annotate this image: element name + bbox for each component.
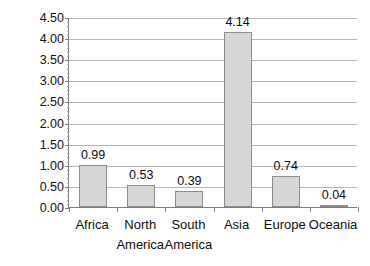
x-axis-tick [69,207,70,212]
bar[interactable] [224,32,252,207]
bar-value-label: 0.04 [322,189,346,202]
bar-value-label: 4.14 [225,16,249,29]
bar-slot: 4.14 [214,18,262,207]
bar[interactable] [320,205,348,207]
y-axis-tick-label: 2.50 [20,96,64,108]
x-axis-category-labels: AfricaNorthAmericaSouthAmericaAsiaEurope… [68,215,357,261]
bar-value-label: 0.53 [129,169,153,182]
x-axis-category-label: SouthAmerica [164,215,212,255]
y-axis-tick-label: 4.50 [20,12,64,24]
y-axis-tick-label: 3.50 [20,54,64,66]
x-axis-category-label: Africa [68,215,116,235]
bar-value-label: 0.99 [81,149,105,162]
bar-slot: 0.99 [69,18,117,207]
x-axis-tick [358,207,359,212]
bar-value-label: 0.39 [177,175,201,188]
bar-slot: 0.74 [262,18,310,207]
bar[interactable] [79,165,107,207]
bar[interactable] [127,185,155,207]
y-axis-tick-label: 0.50 [20,181,64,193]
y-axis-tick-labels: 4.504.003.503.002.502.001.501.000.500.00 [20,18,64,208]
x-axis-tick [310,207,311,212]
bar-slot: 0.39 [165,18,213,207]
plot-area: 0.990.530.394.140.740.04 [68,18,357,208]
bar[interactable] [175,191,203,207]
x-axis-tick [214,207,215,212]
bar-slot: 0.04 [310,18,358,207]
y-axis-tick-label: 1.50 [20,139,64,151]
y-axis-tick-label: 2.00 [20,118,64,130]
x-axis-tick [165,207,166,212]
x-axis-category-label: NorthAmerica [116,215,164,255]
x-axis-category-label: Europe [261,215,309,235]
y-axis-tick-label: 4.00 [20,33,64,45]
y-axis-tick-label: 1.00 [20,160,64,172]
bar-chart: Billions 4.504.003.503.002.502.001.501.0… [0,0,370,266]
y-axis-tick-label: 0.00 [20,202,64,214]
x-axis-tick [117,207,118,212]
y-axis-tick-label: 3.00 [20,75,64,87]
bar-slot: 0.53 [117,18,165,207]
x-axis-tick [262,207,263,212]
bars-group: 0.990.530.394.140.740.04 [69,18,357,207]
bar[interactable] [272,176,300,207]
x-axis-category-label: Asia [213,215,261,235]
bar-value-label: 0.74 [274,160,298,173]
x-axis-category-label: Oceania [309,215,357,235]
